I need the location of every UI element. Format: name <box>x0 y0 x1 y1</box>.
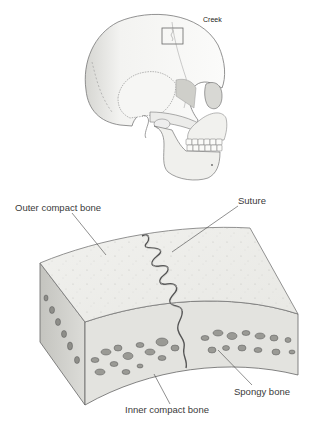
mental-foramen <box>211 164 213 166</box>
orbit <box>205 83 222 109</box>
label-outer-compact-bone: Outer compact bone <box>15 203 101 213</box>
label-spongy-bone: Spongy bone <box>234 387 290 397</box>
bone-section-illustration <box>40 206 298 405</box>
creek-annotation: Creek <box>203 16 222 23</box>
ear-process <box>142 115 149 138</box>
teeth <box>186 139 222 151</box>
leader-inner-compact-bone <box>154 374 170 404</box>
label-inner-compact-bone: Inner compact bone <box>125 405 209 415</box>
skull-illustration <box>85 14 227 180</box>
skull-suture-diagram: Creek Outer compact bone Suture Spongy b… <box>0 0 313 430</box>
label-suture: Suture <box>238 196 266 206</box>
diagram-canvas <box>0 0 313 430</box>
